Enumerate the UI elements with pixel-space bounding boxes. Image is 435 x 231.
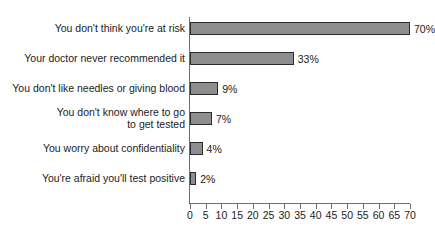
bar (190, 172, 196, 185)
axis-tick-label: 20 (247, 209, 259, 221)
category-label: You don't think you're at risk (0, 22, 185, 34)
bar-value-label: 2% (200, 173, 215, 185)
bar-row: You don't know where to go to get tested… (0, 106, 429, 136)
bar-value-label: 9% (222, 83, 237, 95)
bar-row: You're afraid you'll test positive2% (0, 166, 429, 196)
axis-tick-label: 25 (263, 209, 275, 221)
category-label: You worry about confidentiality (0, 142, 185, 154)
category-label: You're afraid you'll test positive (0, 172, 185, 184)
bar (190, 52, 294, 65)
axis-tick-label: 40 (310, 209, 322, 221)
bar-row: You don't think you're at risk70% (0, 16, 429, 46)
bar-row: You worry about confidentiality4% (0, 136, 429, 166)
axis-tick-label: 45 (326, 209, 338, 221)
category-label: You don't know where to go to get tested (0, 106, 185, 130)
bar (190, 22, 410, 35)
category-label: You don't like needles or giving blood (0, 82, 185, 94)
bar-value-label: 4% (207, 143, 222, 155)
axis-tick-label: 0 (187, 209, 193, 221)
bar (190, 82, 218, 95)
bar (190, 112, 212, 125)
axis-tick-label: 65 (388, 209, 400, 221)
axis-tick-label: 10 (216, 209, 228, 221)
bar-value-label: 7% (216, 113, 231, 125)
bar-value-label: 33% (298, 53, 319, 65)
axis-tick-label: 55 (357, 209, 369, 221)
axis-tick-label: 70 (404, 209, 416, 221)
category-label: Your doctor never recommended it (0, 52, 185, 64)
axis-tick-label: 50 (341, 209, 353, 221)
axis-tick-label: 60 (373, 209, 385, 221)
bar-row: You don't like needles or giving blood9% (0, 76, 429, 106)
bar-value-label: 70% (414, 23, 435, 35)
bar (190, 142, 203, 155)
axis-tick-label: 15 (231, 209, 243, 221)
axis-tick-label: 30 (278, 209, 290, 221)
bar-row: Your doctor never recommended it33% (0, 46, 429, 76)
axis-tick-label: 35 (294, 209, 306, 221)
axis-tick-label: 5 (203, 209, 209, 221)
